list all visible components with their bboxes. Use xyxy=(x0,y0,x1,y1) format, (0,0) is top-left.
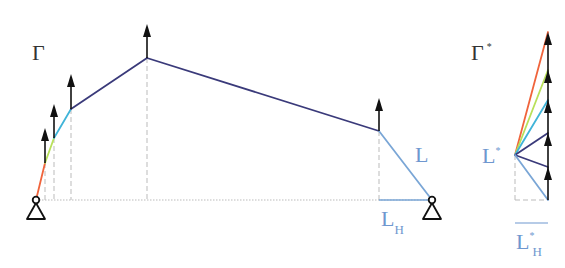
polygon-segment xyxy=(71,58,147,109)
load-arrow-icon xyxy=(143,24,151,58)
funicular-polygon-diagram: Γ L LH Γ* L* L*H xyxy=(0,0,565,268)
gamma-star-label: Γ* xyxy=(471,40,492,65)
load-line xyxy=(544,32,552,200)
pole-label: L* xyxy=(482,143,500,168)
lh-label: LH xyxy=(381,206,404,237)
right-diagram: Γ* L* L*H xyxy=(471,32,552,259)
pole-rays xyxy=(515,32,548,200)
load-arrow-icon xyxy=(544,100,552,113)
pole-ray xyxy=(515,70,548,155)
left-diagram: Γ L LH xyxy=(27,24,441,237)
polygon-segment xyxy=(45,138,54,163)
polygon-segment xyxy=(36,163,45,200)
pole-ray xyxy=(515,100,548,155)
funicular-polygon xyxy=(36,58,432,200)
polygon-segment xyxy=(147,58,379,131)
l-label: L xyxy=(415,142,428,167)
gamma-label: Γ xyxy=(32,40,45,65)
load-arrow-icon xyxy=(375,98,383,131)
load-arrow-icon xyxy=(544,32,552,45)
load-arrow-icon xyxy=(67,74,75,109)
load-arrows xyxy=(41,24,383,163)
load-arrow-icon xyxy=(544,167,552,180)
lh-star-label: L*H xyxy=(516,229,542,259)
